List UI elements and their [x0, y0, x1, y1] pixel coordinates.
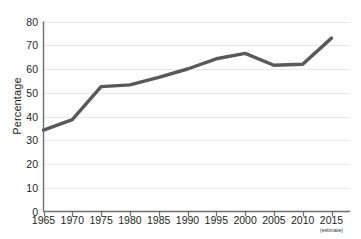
x-axis-tick-label: 2015	[312, 215, 352, 226]
x-axis-tick-labels: 1965197019751980198519901995200020052010…	[0, 0, 361, 239]
line-chart: Percentage 01020304050607080 19651970197…	[0, 0, 361, 239]
x-axis-tick-sublabel: (estimate)	[307, 227, 357, 233]
